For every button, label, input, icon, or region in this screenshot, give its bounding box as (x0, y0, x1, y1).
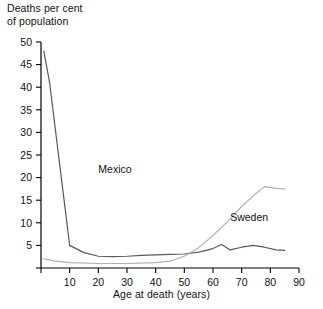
x-axis-title: Age at death (years) (0, 288, 323, 300)
x-tick-label: 80 (264, 276, 276, 288)
y-tick-label: 15 (20, 194, 32, 206)
y-tick-label: 40 (20, 81, 32, 93)
x-tick-label: 60 (207, 276, 219, 288)
axes (41, 42, 299, 268)
y-tick-label: 10 (20, 217, 32, 229)
y-tick-label: 45 (20, 58, 32, 70)
series-label-mexico: Mexico (98, 163, 131, 175)
data-series (44, 51, 285, 263)
series-line-sweden (44, 187, 285, 264)
y-tick-label: 30 (20, 126, 32, 138)
chart-container: Deaths per cent of population 5101520253… (0, 0, 323, 309)
x-tick-label: 40 (150, 276, 162, 288)
x-tick-label: 90 (293, 276, 305, 288)
x-axis-ticks: 102030405060708090 (41, 268, 305, 288)
y-tick-label: 5 (26, 239, 32, 251)
y-tick-label: 50 (20, 36, 32, 48)
x-tick-label: 70 (236, 276, 248, 288)
series-labels: MexicoSweden (98, 163, 268, 222)
plot-area: 5101520253035404550 102030405060708090 M… (0, 0, 323, 309)
x-tick-label: 20 (92, 276, 104, 288)
y-axis-ticks: 5101520253035404550 (20, 36, 41, 268)
series-line-mexico (44, 51, 285, 257)
y-tick-label: 35 (20, 104, 32, 116)
x-tick-label: 50 (178, 276, 190, 288)
x-tick-label: 10 (64, 276, 76, 288)
y-tick-label: 20 (20, 171, 32, 183)
series-label-sweden: Sweden (230, 211, 268, 223)
y-tick-label: 25 (20, 149, 32, 161)
x-tick-label: 30 (121, 276, 133, 288)
